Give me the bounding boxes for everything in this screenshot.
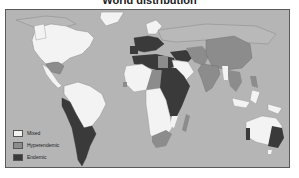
legend-label: Mixed bbox=[27, 130, 40, 137]
australia-endemic-west bbox=[246, 128, 250, 140]
map-title: World distribution bbox=[0, 0, 299, 6]
world-map: Mixed Hyperendemic Endemic bbox=[5, 9, 290, 168]
legend-swatch-hyperendemic bbox=[13, 142, 23, 149]
legend-swatch-endemic bbox=[13, 154, 23, 161]
legend-label: Hyperendemic bbox=[27, 142, 59, 149]
legend-item-mixed: Mixed bbox=[13, 128, 59, 139]
legend-item-hyperendemic: Hyperendemic bbox=[13, 140, 59, 151]
legend-item-endemic: Endemic bbox=[13, 152, 59, 163]
legend-label: Endemic bbox=[27, 154, 46, 161]
legend-swatch-mixed bbox=[13, 130, 23, 137]
senegal bbox=[123, 82, 127, 87]
map-legend: Mixed Hyperendemic Endemic bbox=[13, 128, 59, 164]
iberia bbox=[130, 46, 138, 54]
egypt bbox=[158, 56, 168, 68]
alaska bbox=[34, 24, 46, 40]
